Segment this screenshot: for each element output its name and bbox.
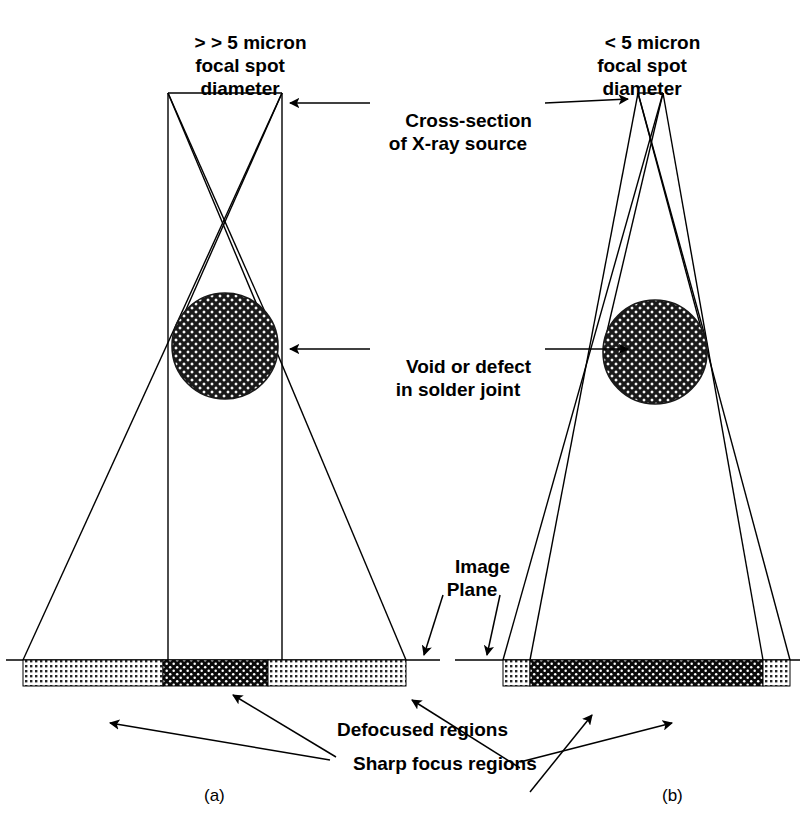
diagram-b-bands — [503, 660, 790, 686]
diagram-a-bands — [23, 660, 406, 686]
band-b-defocused-right — [763, 660, 790, 686]
callout-arrows — [110, 99, 672, 792]
sharp-focus-regions-label: Sharp focus regions — [353, 752, 633, 775]
band-b-defocused-left — [503, 660, 530, 686]
source-b-label: < 5 micron focal spot diameter — [552, 8, 732, 123]
void-label: Void or defect in solder joint — [378, 332, 538, 424]
image-plane-label: Image Plane — [412, 532, 532, 624]
band-a-defocused-left — [23, 660, 163, 686]
band-a-defocused-right — [268, 660, 406, 686]
band-a-sharp-focus — [163, 660, 268, 686]
xray-focal-spot-figure: > > 5 micron focal spot diameter < 5 mic… — [0, 0, 800, 823]
band-b-sharp-focus — [530, 660, 763, 686]
void-circle-b — [603, 300, 707, 404]
cross-section-label: Cross-section of X-ray source — [378, 86, 538, 178]
void-circle-a — [172, 293, 278, 399]
caption-a: (a) — [204, 786, 225, 806]
defocused-regions-label: Defocused regions — [337, 718, 597, 741]
arrow-defocused-a-left — [110, 723, 330, 760]
source-a-label: > > 5 micron focal spot diameter — [150, 8, 330, 123]
caption-b: (b) — [662, 786, 683, 806]
arrow-defocused-a-right — [233, 695, 336, 757]
